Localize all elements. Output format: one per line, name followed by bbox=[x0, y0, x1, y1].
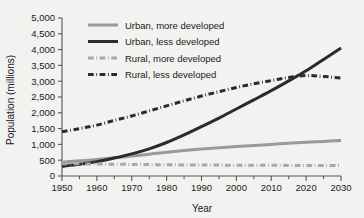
y-tick-label: 0 bbox=[50, 170, 55, 181]
x-axis-title: Year bbox=[192, 203, 213, 214]
y-tick-label: 5,000 bbox=[31, 12, 55, 23]
legend-label: Urban, more developed bbox=[125, 20, 224, 31]
x-tick-label: 2020 bbox=[296, 182, 317, 193]
y-tick-label: 2,500 bbox=[31, 91, 55, 102]
y-tick-label: 4,500 bbox=[31, 28, 55, 39]
x-tick-label: 2010 bbox=[261, 182, 282, 193]
x-tick-label: 1980 bbox=[156, 182, 177, 193]
x-tick-label: 1950 bbox=[51, 182, 72, 193]
legend-label: Rural, more developed bbox=[125, 53, 221, 64]
chart-canvas: 05001,0001,5002,0002,5003,0003,5004,0004… bbox=[0, 0, 364, 218]
y-tick-label: 3,500 bbox=[31, 60, 55, 71]
y-tick-label: 500 bbox=[39, 155, 55, 166]
x-tick-label: 2030 bbox=[330, 182, 351, 193]
population-line-chart: 05001,0001,5002,0002,5003,0003,5004,0004… bbox=[0, 0, 364, 218]
x-tick-label: 1970 bbox=[121, 182, 142, 193]
y-tick-label: 1,000 bbox=[31, 139, 55, 150]
x-axis: 195019601970198019902000201020202030 bbox=[51, 176, 351, 193]
legend-label: Urban, less developed bbox=[125, 36, 220, 47]
y-tick-label: 4,000 bbox=[31, 44, 55, 55]
x-tick-label: 2000 bbox=[226, 182, 247, 193]
x-tick-label: 1960 bbox=[86, 182, 107, 193]
y-axis-title: Population (millions) bbox=[5, 55, 16, 145]
y-tick-label: 3,000 bbox=[31, 76, 55, 87]
y-tick-label: 2,000 bbox=[31, 107, 55, 118]
x-tick-label: 1990 bbox=[191, 182, 212, 193]
y-tick-label: 1,500 bbox=[31, 123, 55, 134]
legend-label: Rural, less developed bbox=[125, 69, 216, 80]
